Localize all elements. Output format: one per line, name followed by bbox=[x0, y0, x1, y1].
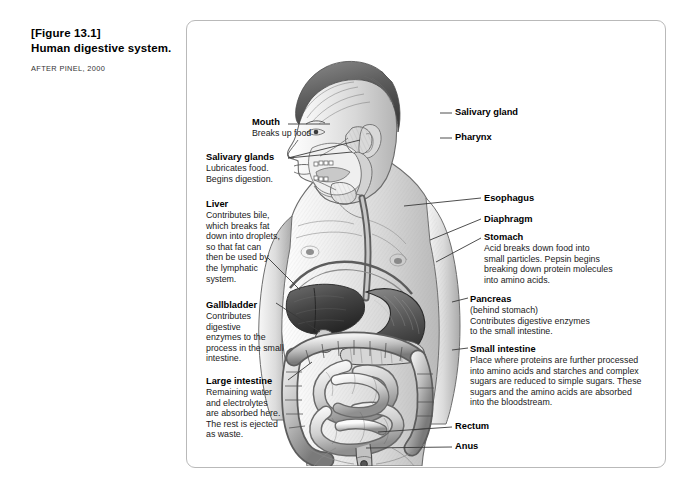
label-rectum[interactable]: Rectum bbox=[455, 421, 545, 432]
label-large-intestine[interactable]: Large intestine Remaining water and elec… bbox=[206, 376, 298, 440]
label-salivary-glands-heading: Salivary glands bbox=[206, 152, 311, 163]
label-pharynx-heading: Pharynx bbox=[455, 132, 575, 143]
label-stomach-heading: Stomach bbox=[484, 232, 650, 243]
label-diaphragm[interactable]: Diaphragm bbox=[484, 214, 604, 225]
label-liver-body: Contributes bile, which breaks fat down … bbox=[206, 210, 298, 284]
label-stomach-body: Acid breaks down food into small particl… bbox=[484, 243, 650, 285]
label-rectum-heading: Rectum bbox=[455, 421, 545, 432]
nipple-left bbox=[306, 249, 314, 255]
label-salivary-gland-heading: Salivary gland bbox=[455, 107, 575, 118]
label-pancreas-body: (behind stomach) Contributes digestive e… bbox=[470, 305, 630, 337]
label-gallbladder[interactable]: Gallbladder Contributes digestive enzyme… bbox=[206, 300, 294, 364]
label-esophagus[interactable]: Esophagus bbox=[484, 193, 604, 204]
figure-number: [Figure 13.1] bbox=[31, 26, 181, 40]
label-anus-heading: Anus bbox=[455, 441, 545, 452]
label-gallbladder-heading: Gallbladder bbox=[206, 300, 294, 311]
salivary-gland-parotid bbox=[345, 127, 372, 155]
label-small-intestine-heading: Small intestine bbox=[470, 344, 655, 355]
figure-caption: [Figure 13.1] Human digestive system. AF… bbox=[31, 26, 181, 73]
label-pharynx[interactable]: Pharynx bbox=[455, 132, 575, 143]
nipple-right bbox=[394, 258, 402, 264]
label-small-intestine[interactable]: Small intestine Place where proteins are… bbox=[470, 344, 655, 408]
figure-title: Human digestive system. bbox=[31, 41, 181, 56]
label-anus[interactable]: Anus bbox=[455, 441, 545, 452]
label-stomach[interactable]: Stomach Acid breaks down food into small… bbox=[484, 232, 650, 285]
label-salivary-glands[interactable]: Salivary glands Lubricates food. Begins … bbox=[206, 152, 311, 184]
label-large-intestine-body: Remaining water and electrolytes are abs… bbox=[206, 387, 298, 440]
label-liver-heading: Liver bbox=[206, 199, 298, 210]
label-pancreas[interactable]: Pancreas (behind stomach) Contributes di… bbox=[470, 294, 630, 337]
label-diaphragm-heading: Diaphragm bbox=[484, 214, 604, 225]
label-pancreas-heading: Pancreas bbox=[470, 294, 630, 305]
label-mouth-heading: Mouth bbox=[252, 117, 338, 128]
label-mouth[interactable]: Mouth Breaks up food bbox=[252, 117, 338, 139]
label-large-intestine-heading: Large intestine bbox=[206, 376, 298, 387]
figure-credit: AFTER PINEL, 2000 bbox=[31, 64, 181, 73]
label-gallbladder-body: Contributes digestive enzymes to the pro… bbox=[206, 311, 294, 364]
label-salivary-gland[interactable]: Salivary gland bbox=[455, 107, 575, 118]
label-small-intestine-body: Place where proteins are further process… bbox=[470, 355, 655, 408]
label-esophagus-heading: Esophagus bbox=[484, 193, 604, 204]
label-liver[interactable]: Liver Contributes bile, which breaks fat… bbox=[206, 199, 298, 284]
label-salivary-glands-body: Lubricates food. Begins digestion. bbox=[206, 163, 311, 184]
figure-page: [Figure 13.1] Human digestive system. AF… bbox=[0, 0, 681, 491]
anus bbox=[361, 461, 368, 466]
label-mouth-body: Breaks up food bbox=[252, 128, 338, 139]
